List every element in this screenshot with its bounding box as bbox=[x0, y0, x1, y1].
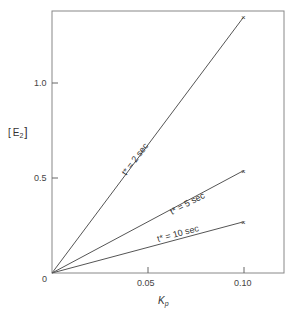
origin-label: 0 bbox=[42, 274, 47, 284]
series-t2: × bbox=[52, 13, 246, 273]
x-tick-label-0.10: 0.10 bbox=[234, 278, 252, 288]
end-marker-x: × bbox=[241, 218, 246, 227]
x-tick-label-0.05: 0.05 bbox=[137, 278, 155, 288]
series-t10: × bbox=[52, 218, 246, 273]
series-label-t10: t* = 10 sec bbox=[156, 223, 200, 244]
series-t5: × bbox=[52, 167, 246, 273]
y-tick-label-0.5: 0.5 bbox=[34, 173, 47, 183]
svg-text:[E2]: [E2] bbox=[8, 125, 28, 139]
y-tick-label-1.0: 1.0 bbox=[34, 78, 47, 88]
end-marker-x: × bbox=[241, 167, 246, 176]
svg-text:Kp: Kp bbox=[158, 295, 169, 308]
chart-canvas: 1.0 0.5 0 0.05 0.10 Kp [E2] × × × t* = 2… bbox=[0, 0, 294, 312]
y-axis-label: [E2] bbox=[8, 125, 28, 139]
series-label-t5: t* = 5 sec bbox=[168, 190, 206, 217]
end-marker-x: × bbox=[241, 13, 246, 22]
series-label-t2: t* = 2 sec bbox=[120, 141, 151, 178]
x-axis-label: Kp bbox=[158, 295, 169, 308]
